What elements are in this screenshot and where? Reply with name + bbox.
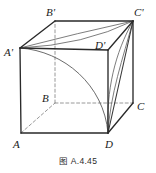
vertex-label-C-prime: C' — [134, 6, 144, 18]
vertex-labels-group: A' B' C' D' A B C D — [3, 6, 145, 150]
cube-diagram: A' B' C' D' A B C D — [0, 0, 156, 173]
vertex-label-C: C — [137, 100, 145, 112]
vertex-label-B-prime: B' — [46, 6, 56, 18]
figure-caption: 图 A.4.45 — [0, 154, 156, 166]
vertex-label-B: B — [42, 92, 49, 104]
vertex-label-A-prime: A' — [3, 46, 14, 58]
curves-group — [20, 21, 133, 133]
figure-container: A' B' C' D' A B C D 图 A.4.45 — [0, 0, 156, 173]
arc-front-Aprime-to-D — [20, 48, 108, 133]
solid-edges-group — [20, 21, 133, 133]
vertex-label-D: D — [104, 138, 113, 150]
hidden-edges-group — [21, 21, 133, 133]
edge-A-B-hidden — [21, 103, 55, 133]
edge-A-Aprime — [20, 48, 21, 133]
vertex-label-A: A — [12, 138, 20, 150]
vertex-label-D-prime: D' — [94, 39, 106, 51]
